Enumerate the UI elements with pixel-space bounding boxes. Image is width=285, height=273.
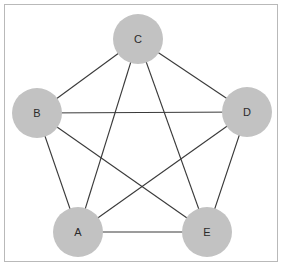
node-label-d: D bbox=[243, 106, 251, 118]
graph-edge-c-e bbox=[138, 39, 207, 232]
node-label-b: B bbox=[33, 107, 41, 119]
graph-node-b[interactable]: B bbox=[12, 88, 62, 138]
node-label-e: E bbox=[203, 226, 211, 238]
graph-edge-b-d bbox=[37, 112, 247, 113]
graph-node-e[interactable]: E bbox=[182, 207, 232, 257]
graph-svg: ABCDE bbox=[0, 0, 285, 273]
node-label-c: C bbox=[134, 33, 142, 45]
graph-node-d[interactable]: D bbox=[222, 87, 272, 137]
graph-node-c[interactable]: C bbox=[113, 14, 163, 64]
node-label-a: A bbox=[74, 226, 82, 238]
nodes-group: ABCDE bbox=[12, 14, 272, 257]
diagram-canvas: ABCDE bbox=[0, 0, 285, 273]
graph-node-a[interactable]: A bbox=[53, 207, 103, 257]
edges-group bbox=[37, 39, 247, 232]
graph-edge-a-c bbox=[78, 39, 138, 232]
